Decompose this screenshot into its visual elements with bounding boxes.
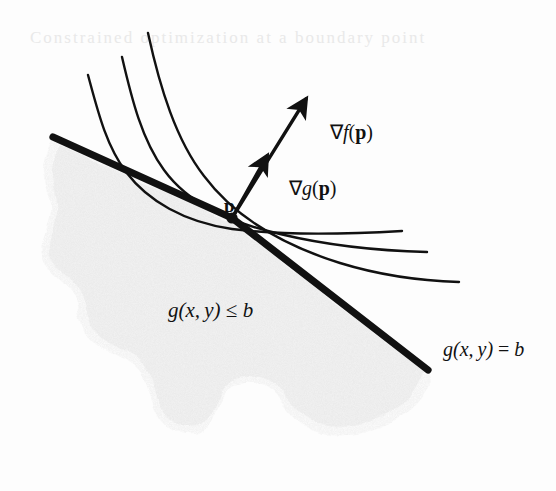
gradient-f-point: p [355, 121, 366, 143]
region-bound: b [243, 298, 254, 322]
point-p-label: p [224, 196, 235, 215]
nabla-icon: ∇ [330, 121, 343, 143]
boundary-bound: b [514, 338, 524, 360]
boundary-function: g [443, 338, 453, 360]
feasible-region-label: g(x, y) ≤ b [168, 300, 253, 321]
boundary-relation: = [498, 338, 509, 360]
region-function: g [168, 298, 179, 322]
diagram-canvas [0, 0, 556, 491]
region-args: (x, y) [179, 298, 221, 322]
region-relation: ≤ [226, 298, 238, 322]
gradient-g-label: ∇g(p) [289, 178, 336, 198]
gradient-g-point: p [319, 177, 330, 199]
gradient-g-arrow [232, 156, 267, 218]
gradient-g-paren-close: ) [330, 177, 337, 199]
gradient-f-label: ∇f(p) [330, 122, 373, 142]
figure-root: Constrained optimization at a boundary p… [0, 0, 556, 491]
feasible-region-shading [40, 137, 432, 435]
gradient-g-function: g [302, 177, 312, 199]
boundary-curve-label: g(x, y) = b [443, 339, 524, 359]
boundary-args: (x, y) [453, 338, 493, 360]
gradient-g-paren-open: ( [312, 177, 319, 199]
gradient-vectors-group [232, 99, 306, 218]
nabla-icon: ∇ [289, 177, 302, 199]
gradient-f-paren-close: ) [366, 121, 373, 143]
